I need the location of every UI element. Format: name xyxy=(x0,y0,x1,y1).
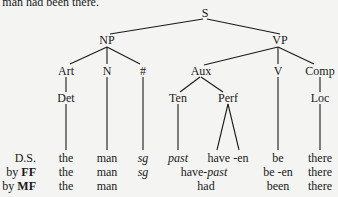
ds-be: be xyxy=(272,152,283,164)
node-number: # xyxy=(140,65,146,77)
mf-there: there xyxy=(308,180,332,192)
node-art: Art xyxy=(58,65,74,77)
mf-had: had xyxy=(197,180,214,192)
row-label-mf: by MF xyxy=(2,180,36,192)
node-perf: Perf xyxy=(218,92,238,104)
syntax-tree-diagram: e man had been there. xyxy=(0,0,338,197)
ff-be-en: be -en xyxy=(263,166,293,178)
ds-sg: sg xyxy=(138,152,149,164)
ff-sg: sg xyxy=(138,166,149,178)
row-label-ds: D.S. xyxy=(15,152,36,164)
ff-there: there xyxy=(308,166,332,178)
ds-past: past xyxy=(168,152,188,164)
node-v: V xyxy=(274,65,283,77)
node-aux: Aux xyxy=(191,65,212,77)
node-ten: Ten xyxy=(169,92,187,104)
node-vp: VP xyxy=(272,34,287,46)
mf-been: been xyxy=(267,180,290,192)
ff-have-past: have-past xyxy=(181,166,228,178)
node-n: N xyxy=(103,65,112,77)
ds-have-en: have -en xyxy=(208,152,249,164)
ff-man: man xyxy=(97,166,118,178)
mf-man: man xyxy=(97,180,118,192)
node-np: NP xyxy=(99,34,114,46)
row-label-ff: by FF xyxy=(6,166,36,178)
ds-there: there xyxy=(308,152,332,164)
node-det: Det xyxy=(57,92,74,104)
ds-the: the xyxy=(59,152,74,164)
ff-the: the xyxy=(59,166,74,178)
node-s: S xyxy=(202,7,209,19)
node-loc: Loc xyxy=(311,92,330,104)
ds-man: man xyxy=(97,152,118,164)
node-comp: Comp xyxy=(305,65,334,77)
mf-the: the xyxy=(59,180,74,192)
